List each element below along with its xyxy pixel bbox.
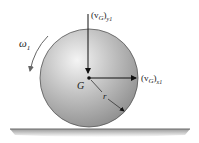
center-label: G <box>77 80 84 91</box>
rolling-sphere-diagram: ω1 (vG)y1 (vG)x1 G r <box>0 0 199 143</box>
velocity-x-label: (vG)x1 <box>141 73 162 85</box>
ground <box>10 129 190 137</box>
radius-label: r <box>103 91 107 101</box>
omega-label: ω1 <box>19 37 30 52</box>
center-point <box>87 76 91 80</box>
velocity-y-label: (vG)y1 <box>91 10 112 22</box>
